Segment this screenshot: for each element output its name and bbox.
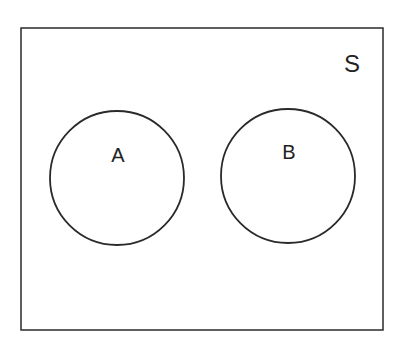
venn-diagram: S A B — [0, 0, 401, 350]
universal-set-label: S — [344, 50, 360, 77]
set-a-circle — [50, 111, 184, 245]
set-b-label: B — [282, 141, 295, 163]
universal-set-rectangle — [21, 28, 383, 330]
set-b-circle — [221, 109, 355, 243]
set-a-label: A — [111, 144, 125, 166]
